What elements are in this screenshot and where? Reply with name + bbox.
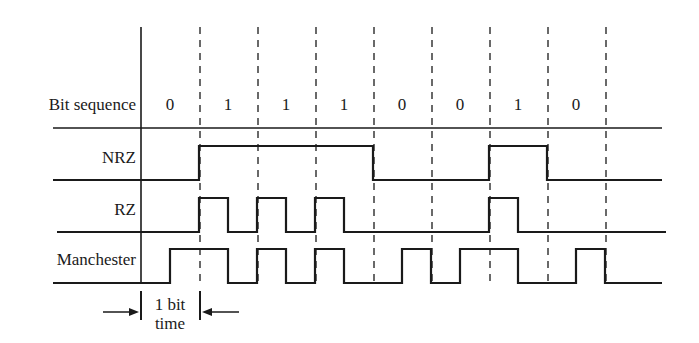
bit-value: 0 bbox=[166, 95, 175, 114]
row-label-rz: RZ bbox=[114, 200, 136, 219]
bit-sequence-values: 01110010 bbox=[166, 95, 581, 114]
row-label-manchester: Manchester bbox=[57, 250, 137, 269]
bit-value: 0 bbox=[572, 95, 581, 114]
arrow-right-icon bbox=[129, 308, 139, 316]
line-coding-diagram: Bit sequence NRZ RZ Manchester 01110010 … bbox=[0, 0, 699, 343]
bit-time-label-line2: time bbox=[155, 314, 185, 333]
bit-time-indicator: 1 bit time bbox=[103, 291, 239, 333]
nrz-waveform bbox=[141, 146, 662, 180]
arrow-left-icon bbox=[202, 308, 212, 316]
bit-value: 0 bbox=[456, 95, 465, 114]
row-label-nrz: NRZ bbox=[102, 148, 136, 167]
bit-value: 1 bbox=[514, 95, 523, 114]
bit-time-label-line1: 1 bit bbox=[155, 295, 186, 314]
row-label-bit-sequence: Bit sequence bbox=[49, 95, 136, 114]
bit-value: 1 bbox=[224, 95, 233, 114]
bit-value: 1 bbox=[340, 95, 349, 114]
bit-value: 0 bbox=[398, 95, 407, 114]
waveforms bbox=[141, 146, 666, 283]
bit-value: 1 bbox=[282, 95, 291, 114]
rz-waveform bbox=[141, 198, 666, 232]
manchester-waveform bbox=[141, 249, 662, 283]
grid-lines bbox=[53, 27, 662, 283]
